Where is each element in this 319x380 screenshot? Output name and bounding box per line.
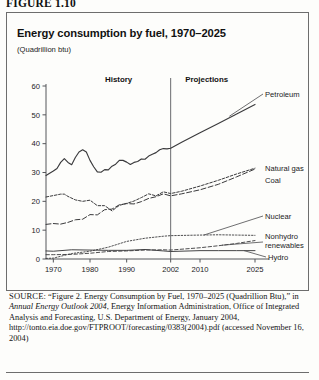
- series-line-nuclear: [46, 235, 255, 259]
- series-label-hydro: Hydro: [268, 253, 288, 262]
- x-tick-label: 2010: [192, 265, 209, 274]
- source-prefix: SOURCE:: [9, 291, 46, 301]
- series-label-coal: Coal: [265, 176, 281, 185]
- leader-petroleum: [229, 94, 263, 116]
- source-note: SOURCE: “Figure 2. Energy Consumption by…: [9, 291, 311, 344]
- series-label-renewables: renewables: [265, 241, 304, 250]
- figure-number-label: FIGURE 1.10: [6, 0, 76, 9]
- x-tick-label: 2002: [162, 265, 179, 274]
- x-tick-label: 2025: [247, 265, 264, 274]
- figure-page: FIGURE 1.10 Energy consumption by fuel, …: [0, 0, 319, 380]
- x-tick-label: 1990: [118, 265, 135, 274]
- y-tick-label: 60: [32, 82, 40, 91]
- series-line-hydro: [46, 249, 255, 251]
- leader-hydro: [244, 251, 266, 257]
- history-label: History: [105, 75, 133, 84]
- source-text-part1: “Figure 2. Energy Consumption by Fuel, 1…: [46, 292, 299, 301]
- series-line-petroleum: [46, 104, 255, 175]
- series-line-natural-gas: [46, 168, 255, 211]
- source-publication-title: Annual Energy Outlook 2004: [9, 302, 107, 311]
- y-tick-label: 20: [32, 197, 40, 206]
- y-tick-label: 10: [32, 226, 40, 235]
- series-label-petroleum: Petroleum: [265, 90, 300, 99]
- projections-label: Projections: [185, 75, 229, 84]
- y-tick-label: 40: [32, 139, 40, 148]
- energy-consumption-line-chart: 0102030405060197019801990200220102025His…: [7, 13, 310, 292]
- leader-nuclear: [204, 216, 263, 235]
- x-tick-label: 1980: [82, 265, 99, 274]
- y-tick-label: 50: [32, 111, 40, 120]
- y-tick-label: 0: [36, 255, 40, 264]
- x-tick-label: 1970: [45, 265, 62, 274]
- y-tick-label: 30: [32, 168, 40, 177]
- series-label-nuclear: Nuclear: [265, 212, 292, 221]
- series-label-natural-gas: Natural gas: [265, 164, 304, 173]
- series-label-nonhydro: Nonhydro: [265, 232, 298, 241]
- figure-box: Energy consumption by fuel, 1970–2025 (Q…: [6, 12, 309, 291]
- series-line-coal: [46, 169, 255, 224]
- bottom-rule: [6, 372, 309, 373]
